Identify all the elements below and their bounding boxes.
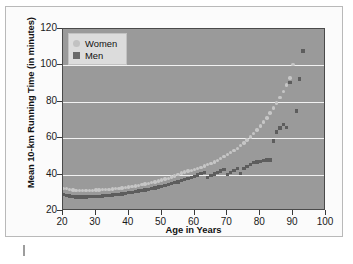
data-point-men — [275, 130, 278, 133]
data-point-men — [285, 126, 288, 129]
data-point-women — [222, 155, 225, 158]
data-point-women — [288, 76, 291, 79]
x-tick-label: 40 — [111, 216, 145, 227]
data-point-women — [272, 106, 275, 109]
men-marker-icon — [73, 52, 80, 59]
x-tick-mark — [325, 210, 326, 215]
x-tick-mark — [95, 210, 96, 215]
x-tick-label: 80 — [242, 216, 276, 227]
x-tick-mark — [259, 210, 260, 215]
gridline — [63, 65, 324, 66]
data-point-men — [295, 109, 298, 112]
legend: Women Men — [68, 33, 127, 65]
data-point-women — [268, 111, 271, 114]
x-tick-mark — [226, 210, 227, 215]
data-point-women — [245, 138, 248, 141]
data-point-men — [278, 126, 281, 129]
y-tick-label: 120 — [23, 22, 57, 33]
data-point-men — [288, 81, 291, 84]
legend-label-women: Women — [85, 38, 117, 49]
x-tick-label: 100 — [308, 216, 342, 227]
plot-area: Women Men — [62, 28, 325, 210]
y-tick-label: 80 — [23, 95, 57, 106]
x-tick-label: 20 — [45, 216, 79, 227]
y-tick-label: 20 — [23, 204, 57, 215]
x-tick-mark — [161, 210, 162, 215]
data-point-women — [242, 141, 245, 144]
data-point-women — [255, 128, 258, 131]
figure: Mean 10-km Running Time (in minutes) Age… — [0, 0, 353, 264]
data-point-men — [203, 171, 206, 174]
x-tick-label: 70 — [209, 216, 243, 227]
legend-item-men: Men — [73, 49, 117, 61]
data-point-women — [249, 135, 252, 138]
data-point-men — [272, 139, 275, 142]
gridline — [63, 102, 324, 103]
data-point-women — [282, 90, 285, 93]
y-tick-label: 60 — [23, 131, 57, 142]
data-point-men — [239, 172, 242, 175]
x-tick-mark — [62, 210, 63, 215]
data-point-women — [278, 96, 281, 99]
x-tick-label: 60 — [177, 216, 211, 227]
gridline — [63, 138, 324, 139]
x-tick-mark — [194, 210, 195, 215]
data-point-women — [259, 124, 262, 127]
legend-item-women: Women — [73, 37, 117, 49]
x-tick-mark — [128, 210, 129, 215]
data-point-women — [275, 101, 278, 104]
data-point-men — [222, 168, 225, 171]
data-point-women — [265, 116, 268, 119]
data-point-men — [301, 49, 304, 52]
x-tick-label: 50 — [144, 216, 178, 227]
data-point-men — [298, 77, 301, 80]
y-tick-label: 40 — [23, 168, 57, 179]
legend-label-men: Men — [85, 50, 103, 61]
data-point-women — [252, 132, 255, 135]
x-tick-mark — [292, 210, 293, 215]
data-point-men — [236, 167, 239, 170]
women-marker-icon — [73, 40, 80, 47]
x-tick-label: 90 — [275, 216, 309, 227]
data-point-women — [291, 63, 294, 66]
y-tick-label: 100 — [23, 58, 57, 69]
data-point-women — [236, 147, 239, 150]
data-point-men — [268, 158, 271, 161]
caption-tick-mark — [23, 245, 25, 256]
x-tick-label: 30 — [78, 216, 112, 227]
data-point-women — [262, 120, 265, 123]
data-point-women — [232, 149, 235, 152]
